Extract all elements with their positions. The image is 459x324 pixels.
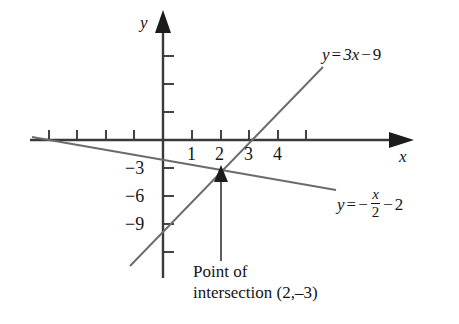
- eq2-lhs: y: [337, 196, 345, 213]
- graph-figure: y x 1 2 3 4 −3 −6 −9 y = 3x − 9 y = − x …: [0, 0, 459, 324]
- line-y-equals-neg-x-over-2-minus-2: [32, 137, 336, 190]
- eq2-denominator: 2: [371, 204, 381, 220]
- eq1-lhs: y: [322, 46, 330, 63]
- x-axis-arrowhead: [389, 132, 414, 148]
- eq2-constant: 2: [395, 196, 404, 213]
- x-tick-label-4: 4: [273, 145, 282, 163]
- y-axis-positive-ticks: [163, 56, 174, 112]
- x-axis-negative-ticks: [49, 130, 134, 140]
- y-axis-negative-ticks: [163, 168, 174, 252]
- x-tick-label-2: 2: [215, 145, 224, 163]
- equation-label-line1: y = 3x − 9: [322, 46, 381, 63]
- eq1-constant: 9: [373, 46, 382, 63]
- eq2-numerator: x: [371, 187, 380, 203]
- equation-label-line2: y = − x 2 − 2: [337, 188, 403, 221]
- x-tick-label-3: 3: [244, 145, 253, 163]
- y-tick-label-minus-6: −6: [125, 187, 144, 205]
- x-tick-label-1: 1: [187, 145, 196, 163]
- line-y-equals-3x-minus-9: [130, 67, 323, 266]
- annotation-line-2: intersection (2,–3): [193, 283, 318, 304]
- eq1-minus: −: [361, 46, 371, 63]
- x-axis-label: x: [399, 148, 407, 165]
- y-axis-arrowhead: [155, 10, 171, 33]
- annotation-line-1: Point of: [193, 262, 318, 283]
- eq2-fraction: x 2: [371, 187, 381, 220]
- eq2-equals: =: [347, 196, 357, 213]
- y-tick-label-minus-9: −9: [125, 215, 144, 233]
- intersection-annotation: Point of intersection (2,–3): [193, 262, 318, 303]
- eq1-equals: =: [332, 46, 342, 63]
- x-axis-positive-ticks: [192, 130, 306, 140]
- y-axis-label: y: [140, 14, 148, 31]
- eq1-slope-term: 3x: [343, 46, 359, 63]
- eq2-minus: −: [383, 196, 393, 213]
- y-tick-label-minus-3: −3: [125, 159, 144, 177]
- eq2-negative-sign: −: [358, 196, 368, 213]
- intersection-pointer-arrow: [214, 165, 228, 261]
